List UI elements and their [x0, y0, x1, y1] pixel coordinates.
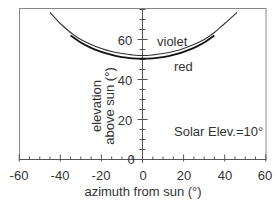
- y-tick-label: 40: [118, 73, 132, 88]
- x-tick-label: 20: [177, 168, 191, 183]
- x-tick-labels: -60 -40 -20 0 20 40 60: [10, 168, 273, 183]
- y-axis-label-line2: above sun (°): [102, 67, 117, 144]
- x-tick-label: 60: [258, 168, 272, 183]
- x-tick-label: -20: [92, 168, 111, 183]
- violet-series-label: violet: [157, 34, 188, 49]
- x-tick-label: 40: [218, 168, 232, 183]
- chart: -60 -40 -20 0 20 40 60 0 20 40 60 elevat…: [0, 0, 277, 204]
- y-tick-label: 0: [127, 152, 134, 167]
- y-tick-label: 20: [118, 113, 132, 128]
- solar-elevation-annotation: Solar Elev.=10°: [174, 124, 263, 139]
- y-tick-label: 60: [118, 33, 132, 48]
- x-axis-label: azimuth from sun (°): [84, 184, 201, 199]
- x-tick-label: 0: [139, 168, 146, 183]
- red-series-label: red: [174, 59, 193, 74]
- x-axis-ticks: [19, 155, 266, 162]
- x-tick-label: -40: [51, 168, 70, 183]
- x-tick-label: -60: [10, 168, 29, 183]
